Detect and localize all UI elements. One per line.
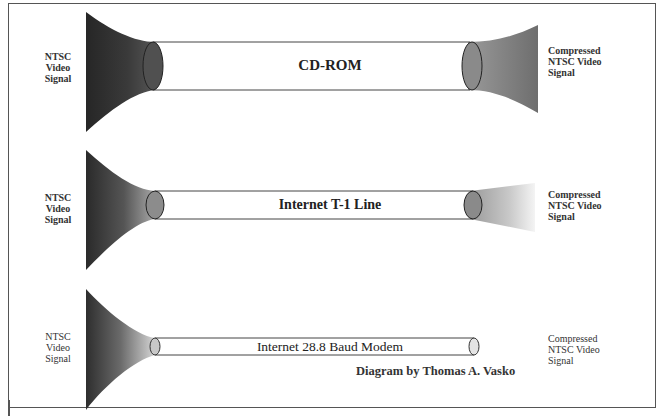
- output-label-cdrom: Compressed NTSC Video Signal: [548, 45, 628, 78]
- label-line: NTSC Video: [548, 56, 628, 67]
- input-label-modem: NTSC Video Signal: [33, 331, 83, 364]
- label-line: Video: [33, 62, 83, 73]
- label-line: Signal: [548, 355, 628, 366]
- label-line: Video: [33, 203, 83, 214]
- diagram-credit: Diagram by Thomas A. Vasko: [356, 364, 515, 379]
- label-line: NTSC: [33, 331, 83, 342]
- input-horn: [86, 289, 155, 410]
- label-line: Video: [33, 342, 83, 353]
- tube-end: [469, 338, 479, 355]
- label-line: Signal: [33, 353, 83, 364]
- channel-label-cdrom: CD-ROM: [230, 57, 430, 74]
- input-horn: [86, 150, 155, 270]
- tube-start: [146, 191, 164, 219]
- label-line: Signal: [548, 211, 628, 222]
- channel-label-modem: Internet 28.8 Baud Modem: [200, 339, 460, 355]
- label-line: Compressed: [548, 45, 628, 56]
- input-label-cdrom: NTSC Video Signal: [33, 51, 83, 84]
- tube-end: [464, 191, 482, 219]
- tube-start: [143, 42, 163, 90]
- output-label-modem: Compressed NTSC Video Signal: [548, 333, 628, 366]
- output-label-t1: Compressed NTSC Video Signal: [548, 189, 628, 222]
- label-line: Signal: [33, 214, 83, 225]
- label-line: NTSC: [33, 192, 83, 203]
- label-line: NTSC: [33, 51, 83, 62]
- label-line: Compressed: [548, 189, 628, 200]
- label-line: Signal: [33, 73, 83, 84]
- label-line: NTSC Video: [548, 344, 628, 355]
- channel-label-t1: Internet T-1 Line: [215, 197, 445, 213]
- tube-start: [150, 338, 160, 355]
- input-label-t1: NTSC Video Signal: [33, 192, 83, 225]
- label-line: Signal: [548, 67, 628, 78]
- label-line: Compressed: [548, 333, 628, 344]
- tube-end: [462, 42, 482, 90]
- label-line: NTSC Video: [548, 200, 628, 211]
